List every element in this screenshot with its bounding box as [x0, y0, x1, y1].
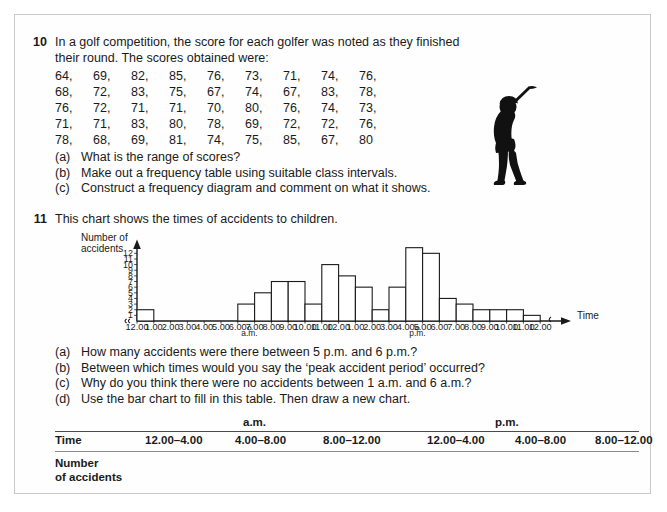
score-cell: 80, [169, 116, 207, 132]
score-cell: 72, [93, 84, 131, 100]
score-cell: 80, [245, 100, 283, 116]
score-cell: 74, [321, 68, 359, 84]
y-axis-label-line1: Number of [81, 232, 128, 243]
question-11-parts: (a) How many accidents were there betwee… [55, 345, 642, 407]
y-axis-label-line2: accidents [81, 243, 123, 254]
score-cell: 72, [283, 116, 321, 132]
chart-bar [523, 315, 540, 321]
chart-bar [305, 304, 322, 321]
question-11-body: This chart shows the times of accidents … [55, 212, 642, 228]
x-tick-label: 2.00 [162, 322, 180, 332]
score-cell: 71, [93, 116, 131, 132]
x-tick-label: 6.00 [430, 322, 448, 332]
score-cell: 76, [359, 116, 397, 132]
score-cell: 74, [207, 132, 245, 148]
table-col-header-2: 4.00–8.00 [235, 434, 286, 446]
score-cell: 72, [93, 100, 131, 116]
x-tick-label: 8.00 [464, 322, 482, 332]
score-cell: 76, [207, 68, 245, 84]
chart-bar [406, 248, 423, 321]
x-tick-label: 3.00 [178, 322, 196, 332]
score-cell: 83, [321, 84, 359, 100]
score-cell: 68, [55, 84, 93, 100]
score-cell: 76, [283, 100, 321, 116]
chart-bar [456, 304, 473, 321]
score-cell: 78, [359, 84, 397, 100]
score-cell: 71, [283, 68, 321, 84]
textbook-page: 10 In a golf competition, the score for … [14, 14, 651, 494]
chart-canvas: Number of accidents [81, 231, 601, 339]
part-text: Make out a frequency table using suitabl… [81, 166, 397, 180]
part-label: (c) [55, 181, 75, 197]
am-marker-label: a.m. [241, 328, 257, 338]
score-cell: 83, [131, 84, 169, 100]
x-axis-ticks: 12.001.002.003.004.005.006.007.008.009.0… [126, 321, 552, 332]
score-cell: 81, [169, 132, 207, 148]
chart-bar [372, 310, 389, 321]
score-cell: 68, [93, 132, 131, 148]
chart-bar [355, 287, 372, 321]
question-11-part-d: (d) Use the bar chart to fill in this ta… [55, 392, 642, 408]
score-cell: 74, [321, 100, 359, 116]
table-period-headers: a.m. p.m. [55, 416, 639, 431]
part-text: How many accidents were there between 5 … [81, 345, 417, 359]
table-footer-line-1: Number [55, 456, 639, 470]
part-text: Construct a frequency diagram and commen… [81, 181, 430, 195]
part-text: Between which times would you say the ‘p… [81, 361, 485, 375]
chart-bar [322, 265, 339, 321]
x-axis-label: Time [577, 310, 599, 321]
x-tick-label: 5.00 [212, 322, 230, 332]
score-cell: 75, [169, 84, 207, 100]
score-cell: 71, [131, 100, 169, 116]
score-cell: 67, [321, 132, 359, 148]
part-label: (a) [55, 345, 75, 361]
scores-row: 78, 68, 69, 81, 74, 75, 85, 67, 80 [55, 132, 397, 148]
chart-bar [271, 282, 288, 321]
chart-bars [137, 248, 540, 321]
scores-row: 76, 72, 71, 71, 70, 80, 76, 74, 73, [55, 100, 397, 116]
y-tick-label: 12 [123, 248, 133, 258]
score-cell: 69, [131, 132, 169, 148]
score-cell: 83, [131, 116, 169, 132]
part-label: (b) [55, 361, 75, 377]
x-tick-label: 4.00 [195, 322, 213, 332]
chart-bar [490, 310, 507, 321]
score-cell: 73, [245, 68, 283, 84]
chart-bar [238, 304, 255, 321]
table-header-row: Time 12.00–4.00 4.00–8.00 8.00–12.00 12.… [55, 432, 639, 451]
score-cell: 67, [207, 84, 245, 100]
table-col-header-4: 12.00–4.00 [427, 434, 485, 446]
score-cell: 76, [359, 68, 397, 84]
accidents-bar-chart: Number of accidents [81, 231, 601, 339]
scores-row: 71, 71, 83, 80, 78, 69, 72, 72, 76, [55, 116, 397, 132]
accidents-answer-table: a.m. p.m. Time 12.00–4.00 4.00–8.00 8.00… [55, 416, 639, 484]
x-tick-label: 12.00 [529, 322, 552, 332]
question-10-intro-line-1: In a golf competition, the score for eac… [55, 35, 642, 51]
chart-bar [423, 253, 440, 321]
score-cell: 78, [207, 116, 245, 132]
question-11-part-b: (b) Between which times would you say th… [55, 361, 642, 377]
table-col-header-6: 8.00–12.00 [595, 434, 653, 446]
scores-row: 64, 69, 82, 85, 76, 73, 71, 74, 76, [55, 68, 397, 84]
chart-bar [389, 287, 406, 321]
table-col-header-5: 4.00–8.00 [515, 434, 566, 446]
page-content: 10 In a golf competition, the score for … [25, 23, 642, 489]
chart-bar [288, 282, 305, 321]
x-tick-label: 8.00 [262, 322, 280, 332]
score-cell: 73, [359, 100, 397, 116]
x-tick-label: 3.00 [380, 322, 398, 332]
part-label: (d) [55, 392, 75, 408]
score-cell: 82, [131, 68, 169, 84]
question-11-number: 11 [25, 212, 47, 226]
chart-bar [473, 310, 490, 321]
question-11-part-c: (c) Why do you think there were no accid… [55, 376, 642, 392]
table-footer-label: Number of accidents [55, 452, 639, 484]
chart-bar [507, 310, 524, 321]
score-cell: 72, [321, 116, 359, 132]
question-10: 10 In a golf competition, the score for … [25, 35, 642, 197]
score-cell: 69, [93, 68, 131, 84]
score-cell: 80 [359, 132, 397, 148]
table-footer-line-2: of accidents [55, 470, 639, 484]
chart-bar [137, 310, 154, 321]
score-cell: 85, [169, 68, 207, 84]
